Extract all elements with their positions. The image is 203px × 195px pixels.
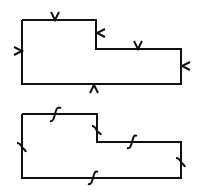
- chevron-mark-top-edge: [51, 12, 59, 20]
- top-polygon-outline: [22, 20, 181, 84]
- chevron-mark-bottom-edge: [90, 85, 98, 93]
- diagram-canvas: [0, 0, 203, 195]
- chevron-mark-step-horizontal: [134, 41, 142, 49]
- bottom-polygon-outline: [22, 114, 181, 178]
- chevron-mark-right-edge: [182, 62, 190, 70]
- chevron-mark-step-vertical: [97, 29, 105, 37]
- bottom-polygon: [17, 107, 185, 184]
- chevron-mark-left-edge: [14, 47, 22, 55]
- top-polygon: [14, 12, 190, 93]
